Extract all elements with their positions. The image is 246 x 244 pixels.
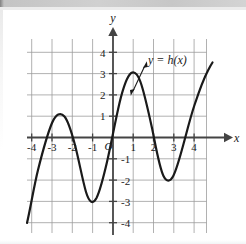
x-tick-label: 4	[191, 141, 197, 153]
y-tick-label: -3	[121, 196, 131, 208]
y-tick-label: 1	[100, 110, 106, 122]
arrowhead-upper	[143, 61, 148, 68]
x-axis-label: x	[233, 131, 240, 145]
x-tick-label: 3	[171, 141, 177, 153]
curve-label-group: y = h(x)	[130, 53, 187, 96]
y-tick-label: 2	[100, 89, 106, 101]
graph-figure: -4 -3 -2 -1 1 2 3 4 4 3 2 1 -1 -2 -3 -4 …	[0, 0, 246, 244]
x-tick-label: -1	[88, 141, 97, 153]
y-tick-label: -2	[121, 175, 130, 187]
curve-label: y = h(x)	[147, 53, 187, 67]
y-axis-label: y	[109, 11, 116, 25]
x-tick-label: -3	[47, 141, 57, 153]
grid-vertical-lines	[32, 39, 207, 233]
y-tick-label: 3	[100, 68, 106, 80]
x-tick-label: 1	[130, 141, 136, 153]
x-tick-label: -4	[27, 141, 37, 153]
y-tick-label: -4	[121, 217, 131, 229]
y-tick-label: -1	[121, 153, 130, 165]
graph-svg: -4 -3 -2 -1 1 2 3 4 4 3 2 1 -1 -2 -3 -4 …	[0, 0, 246, 244]
y-tick-label: 4	[100, 47, 106, 59]
